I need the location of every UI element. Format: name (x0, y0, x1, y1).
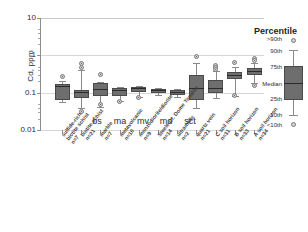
lower-whisker-cap (155, 95, 162, 96)
outlier-point (213, 67, 218, 72)
legend-outlier-low-marker (291, 122, 296, 127)
outlier-point (232, 93, 237, 98)
lower-whisker (81, 98, 82, 108)
outlier-point (232, 60, 237, 65)
y-tick-mark (37, 18, 41, 19)
y-minor-tick (38, 108, 40, 109)
outlier-point (60, 74, 65, 79)
outlier-point (117, 99, 122, 104)
legend: Percentile >90th90th75thMedian25th10th<1… (254, 26, 308, 136)
legend-label: 25th (270, 96, 282, 102)
lower-whisker-cap (193, 108, 200, 109)
upper-whisker-cap (232, 67, 239, 68)
chart-page: Cd, ppm 1010.10.01 bs ma mv md sct sulfi… (0, 0, 308, 232)
y-minor-tick (38, 70, 40, 71)
y-minor-tick (38, 33, 40, 34)
box-iqr (208, 80, 223, 92)
outlier-point (136, 95, 141, 100)
legend-outlier-high-marker (291, 38, 296, 43)
outlier-point (79, 65, 84, 70)
legend-upper-whisker (293, 50, 294, 66)
legend-lower-whisker (293, 100, 294, 116)
category-labels: sulfide-richbiotite schistn=7biotite sch… (0, 131, 308, 232)
y-minor-tick (38, 44, 40, 45)
legend-label: >90th (267, 36, 282, 42)
outlier-point (98, 72, 103, 77)
y-tick-mark (37, 93, 41, 94)
legend-title: Percentile (254, 26, 297, 36)
y-tick-mark (37, 55, 41, 56)
legend-label: Median (262, 81, 282, 87)
median-line (74, 92, 89, 93)
legend-median-line (284, 83, 303, 84)
legend-label: 90th (270, 48, 282, 54)
upper-whisker (216, 71, 217, 80)
upper-whisker (196, 63, 197, 75)
y-tick-label: 10 (8, 13, 36, 22)
upper-whisker-cap (59, 81, 66, 82)
y-minor-tick (38, 81, 40, 82)
median-line (131, 88, 146, 89)
y-minor-tick (38, 29, 40, 30)
y-minor-tick (38, 104, 40, 105)
lower-whisker-cap (59, 102, 66, 103)
y-minor-tick (38, 38, 40, 39)
y-minor-tick (38, 75, 40, 76)
upper-whisker (81, 70, 82, 90)
median-line (170, 92, 185, 93)
legend-upper-cap (289, 50, 298, 51)
lower-whisker-cap (213, 98, 220, 99)
y-minor-tick (38, 67, 40, 68)
median-line (227, 75, 242, 76)
median-line (93, 89, 108, 90)
median-line (55, 86, 70, 87)
legend-lower-cap (289, 115, 298, 116)
legend-label: 10th (270, 112, 282, 118)
boxplot (112, 18, 127, 130)
median-line (112, 90, 127, 91)
legend-label: <10th (267, 122, 282, 128)
upper-whisker-cap (78, 70, 85, 71)
upper-whisker-cap (193, 63, 200, 64)
y-axis-line (40, 18, 41, 130)
y-tick-label: 1 (8, 50, 36, 59)
median-line (151, 90, 166, 91)
outlier-point (194, 54, 199, 59)
legend-label: 75th (270, 64, 282, 70)
y-minor-tick (38, 112, 40, 113)
boxplot (55, 18, 70, 130)
median-line (208, 88, 223, 89)
y-tick-label: 0.1 (8, 88, 36, 97)
